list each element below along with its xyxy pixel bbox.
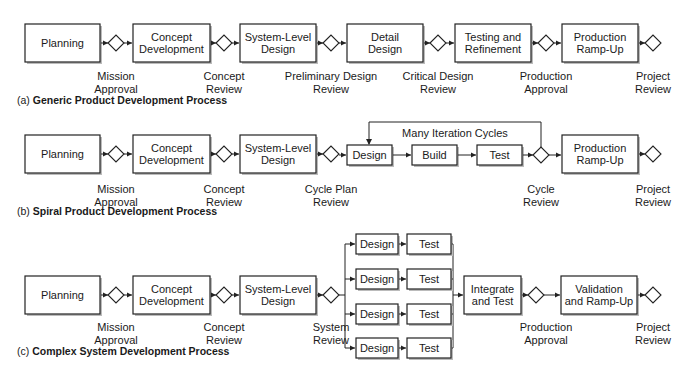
gate-label-c-1-text: Approval xyxy=(94,334,137,346)
gate-label-b-3-text: Review xyxy=(313,196,349,208)
gate-label-c-1-text: Mission xyxy=(97,321,134,333)
gate-label-c-2-text: Concept xyxy=(204,321,245,333)
gate-label-a-1-text: Approval xyxy=(94,83,137,95)
caption-c: (c) Complex System Development Process xyxy=(17,345,230,357)
process-box-c-1: Planning xyxy=(25,276,102,316)
gate-diamond-b-2 xyxy=(216,146,232,162)
process-box-b-ramp-label: Production xyxy=(574,142,627,154)
process-box-c-3-label: Design xyxy=(261,295,295,307)
process-box-c-2-label: Development xyxy=(139,295,204,307)
process-box-b-3: System-LevelDesign xyxy=(240,135,318,175)
gate-label-c-5: ProjectReview xyxy=(635,321,671,346)
parallel-design-box-1: Design xyxy=(356,234,400,256)
process-box-c-validation-label: and Ramp-Up xyxy=(565,295,633,307)
process-box-a-2-label: Development xyxy=(139,43,204,55)
gate-label-c-5-text: Review xyxy=(635,334,671,346)
process-box-a-4-label: Design xyxy=(368,43,402,55)
gate-label-b-1: MissionApproval xyxy=(94,183,137,208)
process-box-a-5-label: Testing and xyxy=(465,31,521,43)
gate-label-a-4: Critical DesignReview xyxy=(403,70,474,95)
process-box-b-ramp-label: Ramp-Up xyxy=(576,154,623,166)
process-box-a-1: Planning xyxy=(25,24,102,64)
process-box-a-5-label: Refinement xyxy=(465,43,521,55)
parallel-test-box-4: Test xyxy=(407,338,453,360)
gate-diamond-a-4 xyxy=(430,35,446,51)
gate-diamond-b-4 xyxy=(533,147,549,163)
gate-diamond-b-5 xyxy=(645,146,661,162)
process-box-b-test-label: Test xyxy=(489,149,509,161)
parallel-test-box-1-label: Test xyxy=(419,238,439,250)
process-box-c-3: System-LevelDesign xyxy=(240,276,318,316)
gate-label-c-2-text: Review xyxy=(206,334,242,346)
gate-label-a-6-text: Project xyxy=(636,70,670,82)
process-box-b-build: Build xyxy=(412,145,459,167)
gate-label-b-5: ProjectReview xyxy=(635,183,671,208)
gate-label-c-3: SystemReview xyxy=(313,321,350,346)
gate-diamond-c-3 xyxy=(323,287,339,303)
process-box-b-2-label: Concept xyxy=(151,142,192,154)
process-box-a-3-label: Design xyxy=(261,43,295,55)
process-box-b-test: Test xyxy=(477,145,524,167)
gate-diamond-a-2 xyxy=(216,35,232,51)
process-box-a-6-label: Production xyxy=(574,31,627,43)
parallel-design-box-2: Design xyxy=(356,269,400,291)
process-box-a-2-label: Concept xyxy=(151,31,192,43)
gate-label-c-4-text: Production xyxy=(520,321,573,333)
process-box-b-1-label: Planning xyxy=(41,148,84,160)
process-box-c-2-label: Concept xyxy=(151,283,192,295)
gate-diamond-b-3 xyxy=(323,146,339,162)
gate-label-a-2-text: Review xyxy=(206,83,242,95)
gate-diamond-c-5 xyxy=(645,287,661,303)
gate-label-b-1-text: Mission xyxy=(97,183,134,195)
parallel-test-box-1: Test xyxy=(407,234,453,256)
gate-diamond-b-1 xyxy=(108,146,124,162)
process-box-a-4-label: Detail xyxy=(371,31,399,43)
gate-label-b-2-text: Concept xyxy=(204,183,245,195)
gate-label-a-6-text: Review xyxy=(635,83,671,95)
process-box-a-3: System-LevelDesign xyxy=(240,24,318,64)
parallel-design-box-3: Design xyxy=(356,304,400,326)
gate-label-c-2: ConceptReview xyxy=(204,321,245,346)
process-box-b-2: ConceptDevelopment xyxy=(133,135,212,175)
gate-label-a-2: ConceptReview xyxy=(204,70,245,95)
process-box-b-design: Design xyxy=(347,145,394,167)
process-box-c-2: ConceptDevelopment xyxy=(133,276,212,316)
parallel-test-box-4-label: Test xyxy=(419,342,439,354)
gate-label-b-3-text: Cycle Plan xyxy=(305,183,358,195)
gate-label-a-2-text: Concept xyxy=(204,70,245,82)
gate-label-a-5: ProductionApproval xyxy=(520,70,573,95)
loop-label: Many Iteration Cycles xyxy=(402,127,508,139)
process-box-c-3-label: System-Level xyxy=(245,283,312,295)
gate-label-b-3: Cycle PlanReview xyxy=(305,183,358,208)
process-box-a-5: Testing andRefinement xyxy=(455,24,533,64)
parallel-design-box-1-label: Design xyxy=(360,238,394,250)
process-box-a-1-label: Planning xyxy=(41,37,84,49)
gate-diamond-c-2 xyxy=(216,287,232,303)
process-box-b-1: Planning xyxy=(25,135,102,175)
product-development-diagram: PlanningConceptDevelopmentSystem-LevelDe… xyxy=(0,0,693,372)
gate-diamond-c-1 xyxy=(108,287,124,303)
gate-label-a-5-text: Production xyxy=(520,70,573,82)
gate-diamond-a-6 xyxy=(645,35,661,51)
gate-label-c-1: MissionApproval xyxy=(94,321,137,346)
parallel-test-box-2-label: Test xyxy=(419,273,439,285)
process-box-a-6: ProductionRamp-Up xyxy=(562,24,640,64)
gate-label-b-4-text: Review xyxy=(523,196,559,208)
gate-label-c-4-text: Approval xyxy=(524,334,567,346)
process-box-c-validation: Validationand Ramp-Up xyxy=(561,276,639,316)
parallel-design-box-3-label: Design xyxy=(360,308,394,320)
process-box-a-3-label: System-Level xyxy=(245,31,312,43)
gate-label-a-5-text: Approval xyxy=(524,83,567,95)
process-box-b-build-label: Build xyxy=(422,149,446,161)
gate-label-a-6: ProjectReview xyxy=(635,70,671,95)
process-box-c-validation-label: Validation xyxy=(575,283,623,295)
parallel-design-box-4: Design xyxy=(356,338,400,360)
gate-label-c-5-text: Project xyxy=(636,321,670,333)
process-box-b-3-label: Design xyxy=(261,154,295,166)
process-box-b-design-label: Design xyxy=(352,149,386,161)
process-box-b-3-label: System-Level xyxy=(245,142,312,154)
process-box-b-2-label: Development xyxy=(139,154,204,166)
gate-label-c-3-text: System xyxy=(313,321,350,333)
gate-label-a-3-text: Preliminary Design xyxy=(285,70,377,82)
gate-label-a-3-text: Review xyxy=(313,83,349,95)
